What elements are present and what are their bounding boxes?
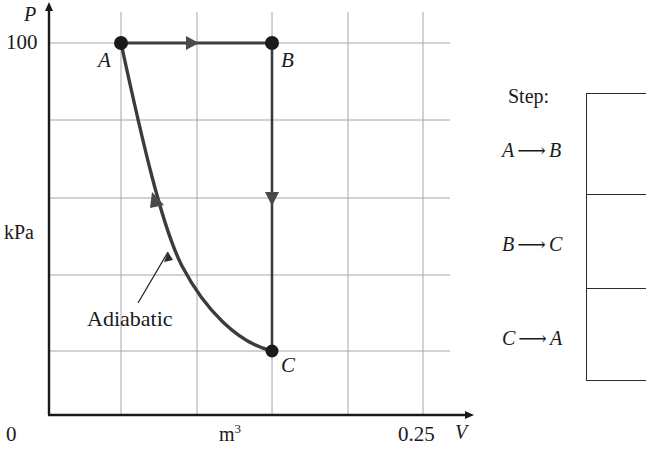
x-axis-unit-label: m3	[219, 424, 241, 444]
step-answer-cell-c-to-a[interactable]	[587, 289, 646, 382]
adiabatic-annotation-label: Adiabatic	[87, 308, 173, 330]
arrow-icon: ⟶	[514, 233, 549, 255]
step-to-c: C	[549, 233, 562, 255]
step-row-label-b-to-c: B⟶C	[502, 232, 562, 256]
step-from-b: B	[502, 233, 514, 255]
x-axis-symbol: V	[455, 422, 467, 442]
pv-diagram: P V 100 kPa 0 0.25 m3 A B C Adiabatic	[0, 0, 490, 465]
state-label-a: A	[98, 50, 111, 71]
step-table-heading: Step:	[508, 85, 549, 108]
step-table-block: Step: A⟶B B⟶C C⟶A	[490, 0, 626, 465]
adiabatic-leader-line	[138, 252, 168, 303]
step-answer-cell-b-to-c[interactable]	[587, 195, 646, 289]
x-axis-tick-max: 0.25	[398, 424, 435, 445]
x-axis-unit-base: m	[219, 423, 235, 445]
direction-arrow-b-to-c	[265, 192, 279, 206]
pv-diagram-canvas	[0, 0, 490, 465]
step-to-a: A	[550, 327, 562, 349]
step-answer-table	[586, 93, 646, 381]
step-row-label-a-to-b: A⟶B	[502, 138, 561, 162]
y-axis-unit-label: kPa	[4, 222, 34, 242]
origin-label: 0	[6, 424, 17, 445]
state-point-b	[265, 36, 279, 50]
x-axis-unit-exponent: 3	[235, 421, 242, 436]
step-answer-cell-a-to-b[interactable]	[587, 94, 646, 195]
step-from-c: C	[502, 327, 515, 349]
step-row-label-c-to-a: C⟶A	[502, 326, 562, 350]
step-to-b: B	[549, 139, 561, 161]
state-point-a	[114, 36, 128, 50]
y-axis-tick-100: 100	[6, 32, 38, 53]
arrow-icon: ⟶	[514, 139, 549, 161]
y-axis-symbol: P	[24, 4, 36, 24]
state-label-b: B	[281, 50, 294, 71]
grid-horizontal	[49, 43, 450, 351]
step-from-a: A	[502, 139, 514, 161]
state-label-c: C	[281, 355, 295, 376]
state-point-c	[266, 345, 279, 358]
arrow-icon: ⟶	[515, 327, 550, 349]
